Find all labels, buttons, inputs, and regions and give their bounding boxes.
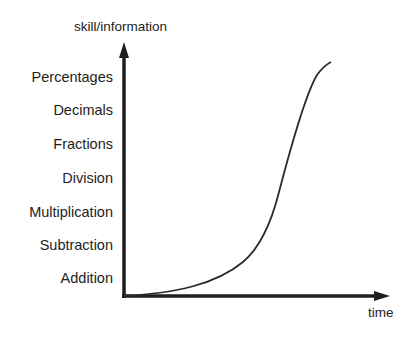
x-axis-arrowhead — [374, 291, 390, 301]
diagram-canvas — [0, 0, 417, 338]
learning-curve — [124, 62, 331, 296]
level-label-decimals: Decimals — [53, 103, 113, 118]
x-axis-title: time — [368, 306, 394, 320]
level-label-fractions: Fractions — [53, 137, 113, 152]
level-label-subtraction: Subtraction — [40, 238, 113, 253]
level-label-percentages: Percentages — [32, 70, 113, 85]
level-label-multiplication: Multiplication — [29, 205, 113, 220]
y-axis-title: skill/information — [74, 20, 167, 34]
y-axis-arrowhead — [119, 42, 129, 58]
level-label-division: Division — [62, 171, 113, 186]
level-label-addition: Addition — [61, 271, 113, 286]
